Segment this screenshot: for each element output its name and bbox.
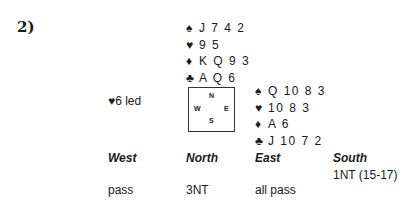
auction-bid-north-2: 3NT: [186, 183, 209, 197]
auction-header-west: West: [108, 151, 136, 165]
heart-icon: ♥: [186, 37, 199, 54]
compass-north: N: [209, 92, 214, 99]
north-diamonds: ♦K Q 9 3: [186, 53, 250, 70]
north-clubs: ♣A Q 6: [186, 70, 250, 87]
diamond-icon: ♦: [186, 53, 199, 70]
diamond-icon: ♦: [255, 116, 268, 133]
auction-header-east: East: [255, 151, 280, 165]
heart-icon: ♥: [255, 100, 268, 117]
opening-lead: ♥6 led: [108, 94, 141, 108]
club-icon: ♣: [186, 70, 199, 87]
compass-west: W: [194, 105, 201, 112]
auction-header-north: North: [186, 151, 218, 165]
problem-number: 2): [17, 18, 35, 36]
east-clubs: ♣J 10 7 2: [255, 133, 326, 150]
compass-diagram: N W E S: [188, 87, 235, 132]
spade-icon: ♠: [255, 83, 268, 100]
auction-bid-south-1: 1NT (15-17): [333, 168, 397, 182]
club-icon: ♣: [255, 133, 268, 150]
compass-south: S: [209, 117, 214, 124]
auction-header-south: South: [333, 151, 367, 165]
spade-icon: ♠: [186, 20, 199, 37]
east-hearts: ♥10 8 3: [255, 100, 326, 117]
east-diamonds: ♦A 6: [255, 116, 326, 133]
north-hand: ♠J 7 4 2 ♥9 5 ♦K Q 9 3 ♣A Q 6: [186, 20, 250, 86]
north-hearts: ♥9 5: [186, 37, 250, 54]
auction-bid-east-2: all pass: [255, 183, 296, 197]
compass-east: E: [224, 105, 229, 112]
auction-bid-west-2: pass: [108, 183, 133, 197]
north-spades: ♠J 7 4 2: [186, 20, 250, 37]
east-spades: ♠Q 10 8 3: [255, 83, 326, 100]
east-hand: ♠Q 10 8 3 ♥10 8 3 ♦A 6 ♣J 10 7 2: [255, 83, 326, 149]
